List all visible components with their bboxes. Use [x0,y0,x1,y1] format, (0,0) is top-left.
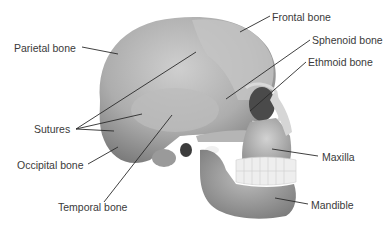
ear-canal [180,143,192,157]
label-mandible: Mandible [311,199,354,211]
temporal-region [131,88,219,132]
label-frontal-bone: Frontal bone [272,11,331,23]
label-maxilla: Maxilla [322,151,355,163]
mastoid-process [152,149,176,167]
label-occipital-bone: Occipital bone [17,159,84,171]
label-temporal-bone: Temporal bone [58,201,127,213]
label-sutures: Sutures [34,123,70,135]
label-ethmoid-bone: Ethmoid bone [308,56,373,68]
label-sphenoid-bone: Sphenoid bone [312,34,383,46]
skull-diagram: Frontal bone Parietal bone Sphenoid bone… [0,0,392,226]
label-parietal-bone: Parietal bone [14,42,76,54]
